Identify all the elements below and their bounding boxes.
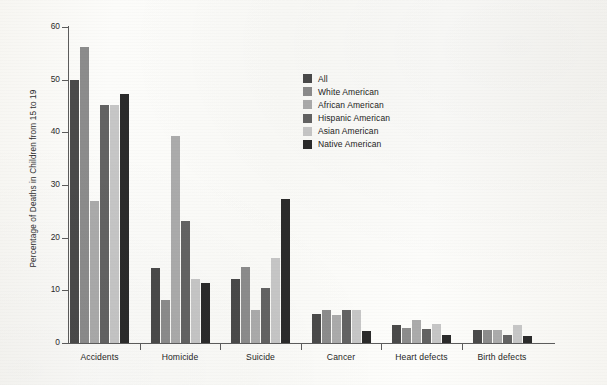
legend-swatch-icon: [303, 114, 312, 123]
bar: [201, 283, 210, 343]
bar: [422, 329, 431, 343]
y-axis-tick: [62, 290, 69, 291]
y-axis-tick: [62, 343, 69, 344]
x-axis-category-label: Cancer: [296, 352, 386, 362]
y-axis-tick-label: 20: [36, 232, 60, 242]
bar: [271, 258, 280, 343]
x-axis-category-label: Homicide: [135, 352, 225, 362]
bar: [110, 105, 119, 343]
bar: [161, 300, 170, 343]
x-axis-category-label: Heart defects: [377, 352, 467, 362]
bar: [281, 199, 290, 343]
bar: [70, 80, 79, 343]
bar: [312, 314, 321, 343]
x-axis-line: [68, 343, 555, 344]
bar: [100, 105, 109, 343]
y-axis-tick: [62, 27, 69, 28]
bar: [342, 310, 351, 343]
bar: [523, 336, 532, 343]
bar: [261, 288, 270, 343]
bar: [503, 335, 512, 343]
legend-item: White American: [303, 86, 390, 98]
bar: [120, 94, 129, 343]
y-axis-tick: [62, 238, 69, 239]
x-axis-category-label: Birth defects: [457, 352, 547, 362]
y-axis-tick-label: 50: [36, 74, 60, 84]
x-axis-tick: [301, 344, 302, 350]
legend-item-label: Native American: [318, 139, 381, 149]
legend-item-label: All: [318, 74, 328, 84]
y-axis-tick-label: 60: [36, 21, 60, 31]
bar-group-heart-defects: [392, 27, 451, 343]
bar-group-accidents: [70, 27, 129, 343]
x-axis-category-label: Accidents: [55, 352, 145, 362]
grouped-bar-chart: Percentage of Deaths in Children from 15…: [0, 0, 607, 385]
bar: [191, 279, 200, 343]
y-axis-tick-label: 0: [36, 337, 60, 347]
legend-item: Native American: [303, 138, 390, 150]
y-axis-tick-label: 40: [36, 126, 60, 136]
legend-item-label: African American: [318, 100, 384, 110]
legend-swatch-icon: [303, 100, 312, 109]
x-axis-tick: [462, 344, 463, 350]
bar: [432, 324, 441, 343]
bar-group-homicide: [151, 27, 210, 343]
bar: [392, 325, 401, 343]
legend-swatch-icon: [303, 140, 312, 149]
bar: [493, 330, 502, 343]
legend-item-label: Hispanic American: [318, 113, 390, 123]
bar: [412, 320, 421, 343]
bar: [402, 328, 411, 343]
legend-item: Asian American: [303, 125, 390, 137]
y-axis-tick: [62, 185, 69, 186]
x-axis-tick: [220, 344, 221, 350]
bar: [181, 221, 190, 343]
bar: [151, 268, 160, 343]
legend-swatch-icon: [303, 127, 312, 136]
y-axis-tick: [62, 80, 69, 81]
legend-item-label: Asian American: [318, 126, 378, 136]
bar: [171, 136, 180, 343]
bar: [332, 315, 341, 343]
y-axis-tick-label: 10: [36, 284, 60, 294]
x-axis-tick: [140, 344, 141, 350]
bar: [241, 267, 250, 343]
bar: [483, 330, 492, 343]
bar-group-suicide: [231, 27, 290, 343]
bar: [322, 310, 331, 343]
legend-swatch-icon: [303, 87, 312, 96]
chart-legend: AllWhite AmericanAfrican AmericanHispani…: [303, 73, 390, 150]
bar: [442, 335, 451, 343]
bar-group-birth-defects: [473, 27, 532, 343]
scanned-page: Percentage of Deaths in Children from 15…: [0, 0, 607, 385]
bar: [362, 331, 371, 343]
legend-item: African American: [303, 99, 390, 111]
bar: [473, 330, 482, 343]
x-axis-tick: [381, 344, 382, 350]
legend-item: All: [303, 73, 390, 85]
y-axis-tick: [62, 132, 69, 133]
bar: [90, 201, 99, 343]
bar: [80, 47, 89, 344]
bar: [513, 325, 522, 343]
legend-swatch-icon: [303, 74, 312, 83]
legend-item-label: White American: [318, 87, 379, 97]
legend-item: Hispanic American: [303, 112, 390, 124]
bar: [231, 279, 240, 343]
y-axis-tick-label: 30: [36, 179, 60, 189]
x-axis-category-label: Suicide: [216, 352, 306, 362]
bar: [352, 310, 361, 343]
bar: [251, 310, 260, 343]
